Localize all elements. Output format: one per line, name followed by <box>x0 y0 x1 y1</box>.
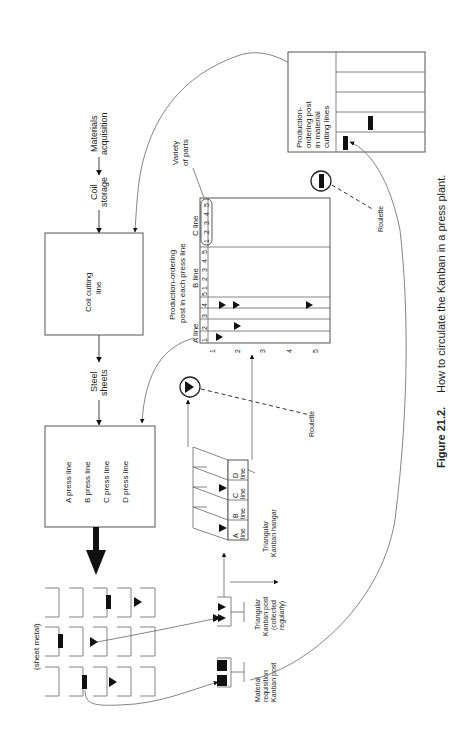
svg-text:Kanban post: Kanban post <box>270 663 278 702</box>
svg-text:Figure 21.2.: Figure 21.2. <box>435 407 447 468</box>
svg-text:line: line <box>239 468 246 479</box>
svg-text:storage: storage <box>99 177 109 207</box>
svg-text:sheets: sheets <box>99 369 109 396</box>
svg-text:1: 1 <box>203 239 210 243</box>
svg-text:4: 4 <box>201 259 208 263</box>
svg-text:Triangular: Triangular <box>262 520 270 552</box>
material-kanban-icon <box>106 595 111 609</box>
production-ordering-title: Production-ordering post in each press l… <box>168 243 187 323</box>
svg-text:B line: B line <box>191 267 200 288</box>
row-labels: 1 2 3 4 5 <box>209 349 319 353</box>
svg-text:A press line: A press line <box>64 461 73 503</box>
svg-text:1: 1 <box>209 349 216 353</box>
triangular-kanban-post <box>213 597 244 626</box>
materials-acquisition-label: Materials acquisition <box>89 112 109 155</box>
steel-sheets-label: Steel sheets <box>89 369 109 396</box>
svg-text:(collected: (collected <box>270 600 278 630</box>
roulette-label: Roulette <box>308 411 315 437</box>
svg-text:B press line: B press line <box>83 461 92 503</box>
svg-text:line: line <box>239 528 246 539</box>
line-labels: A line B line C line <box>191 215 200 343</box>
svg-text:Production-ordering: Production-ordering <box>168 250 177 320</box>
sheet-metal-grid <box>45 588 155 696</box>
svg-text:post in each press line: post in each press line <box>178 243 187 323</box>
material-requisition-kanban-post <box>217 658 244 687</box>
svg-text:2: 2 <box>203 230 210 234</box>
svg-text:How to circulate the Kanban in: How to circulate the Kanban in a press p… <box>435 175 447 393</box>
svg-text:Kanban post: Kanban post <box>262 597 270 636</box>
svg-text:Kanban hangar: Kanban hangar <box>270 508 278 557</box>
triangular-kanban-icon <box>109 677 117 687</box>
svg-text:2: 2 <box>201 277 208 281</box>
svg-text:3: 3 <box>201 314 208 318</box>
svg-text:5: 5 <box>203 203 210 207</box>
big-arrow-down-icon <box>86 527 106 575</box>
coil-storage-label: Coil storage <box>89 177 109 207</box>
roulette-label-2: Roulette <box>377 206 384 232</box>
svg-text:Production-: Production- <box>295 107 304 148</box>
svg-text:B: B <box>232 513 239 518</box>
svg-text:C: C <box>232 493 239 498</box>
svg-text:2: 2 <box>201 326 208 330</box>
svg-text:regularly): regularly) <box>278 601 286 630</box>
production-ordering-table <box>200 198 330 343</box>
svg-text:4: 4 <box>201 303 208 307</box>
svg-text:4: 4 <box>286 349 293 353</box>
svg-text:5: 5 <box>201 292 208 296</box>
svg-text:5: 5 <box>201 250 208 254</box>
svg-text:cutting lines: cutting lines <box>322 106 331 148</box>
svg-text:Coil: Coil <box>89 184 99 200</box>
svg-text:5: 5 <box>312 349 319 353</box>
svg-text:Triangular: Triangular <box>254 598 262 630</box>
arrow-to-triangular-post <box>97 618 218 642</box>
svg-text:A: A <box>232 533 239 538</box>
svg-text:2: 2 <box>234 349 241 353</box>
triangular-kanban-post-label: Triangular Kanban post (collected regula… <box>254 597 286 636</box>
press-lines-box <box>45 426 155 527</box>
svg-text:D press line: D press line <box>121 460 130 503</box>
svg-text:1: 1 <box>201 338 208 342</box>
svg-text:acquisition: acquisition <box>99 112 109 155</box>
kanban-hangar-label: Triangular Kanban hangar <box>262 508 278 557</box>
svg-text:1: 1 <box>201 286 208 290</box>
svg-text:A line: A line <box>191 323 200 343</box>
triangular-kanban-icon <box>134 597 142 607</box>
svg-text:in material: in material <box>313 111 322 148</box>
sheet-metal-label: (sheet metal) <box>32 623 41 670</box>
material-kanban-icon <box>82 675 87 689</box>
svg-text:Materials: Materials <box>89 115 99 152</box>
svg-text:line: line <box>239 488 246 499</box>
material-kanban-icon <box>58 634 63 648</box>
svg-text:Material: Material <box>254 677 261 702</box>
arrow-to-material-post <box>85 682 218 705</box>
material-requisition-label: Material requisition Kanban post <box>254 663 278 702</box>
svg-text:4: 4 <box>203 212 210 216</box>
svg-text:Steel: Steel <box>89 371 99 392</box>
svg-text:3: 3 <box>201 268 208 272</box>
svg-text:3: 3 <box>259 349 266 353</box>
kanban-circulation-diagram: Materials acquisition Coil storage Coil … <box>0 0 471 754</box>
variety-of-parts-label: Variety of parts <box>171 139 190 166</box>
svg-text:C line: C line <box>191 215 200 236</box>
figure-caption: Figure 21.2. How to circulate the Kanban… <box>435 175 447 468</box>
svg-text:C press line: C press line <box>102 460 111 503</box>
triangular-kanban-icon <box>90 637 98 647</box>
svg-text:line: line <box>239 508 246 519</box>
svg-text:of parts: of parts <box>181 139 190 166</box>
svg-text:D: D <box>232 473 239 478</box>
svg-text:3: 3 <box>203 221 210 225</box>
svg-text:Variety: Variety <box>171 141 180 165</box>
svg-text:ordering post: ordering post <box>304 101 313 148</box>
svg-text:Coil cutting: Coil cutting <box>84 272 93 312</box>
svg-text:line: line <box>94 281 103 294</box>
